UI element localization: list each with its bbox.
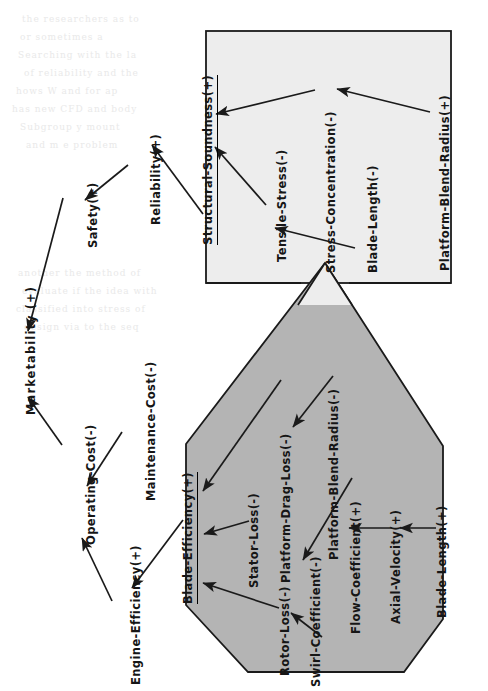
- node-flow-coefficient[interactable]: Flow-Coefficient(+): [351, 501, 363, 634]
- node-operating-cost[interactable]: Operating-Cost(-): [86, 424, 98, 545]
- node-rotor-loss[interactable]: Rotor-Loss(-): [280, 586, 292, 676]
- node-maintenance-cost[interactable]: Maintenance-Cost(-): [146, 361, 158, 501]
- node-swirl-coefficient[interactable]: Swirl-Coefficient(-): [311, 556, 323, 687]
- node-platform-blend-radius-bot[interactable]: Platform-Blend-Radius(-): [329, 389, 341, 560]
- diagram-canvas: the researchers as to or sometimes a Sea…: [0, 0, 488, 691]
- node-marketability[interactable]: Marketability (+): [26, 286, 38, 415]
- node-safety[interactable]: Safety(+): [88, 182, 100, 248]
- node-platform-blend-radius-top[interactable]: Platform-Blend-Radius(+): [440, 95, 452, 271]
- group-label-structural-soundness[interactable]: Structural-Soundness(+): [203, 75, 218, 245]
- diagram-graphics: [0, 0, 488, 691]
- node-axial-velocity[interactable]: Axial-Velocity(+): [391, 509, 403, 624]
- node-tensile-stress[interactable]: Tensile-Stress(-): [277, 149, 289, 262]
- node-blade-length-bot[interactable]: Blade-Length(+): [437, 505, 449, 618]
- node-engine-efficiency[interactable]: Engine-Efficiency(+): [131, 545, 143, 685]
- edge-engine-efficiency-to-operating-cost: [82, 538, 112, 601]
- group-label-blade-efficiency[interactable]: Blade-Efficiency(+): [183, 472, 198, 604]
- node-platform-drag-loss[interactable]: Platform-Drag-Loss(-): [281, 433, 293, 583]
- node-stress-concentration[interactable]: Stress-Concentration(-): [326, 111, 338, 273]
- node-reliability[interactable]: Reliability(+): [151, 134, 163, 225]
- node-blade-length-top[interactable]: Blade-Length(-): [368, 165, 380, 273]
- node-stator-loss[interactable]: Stator-Loss(-): [249, 493, 261, 588]
